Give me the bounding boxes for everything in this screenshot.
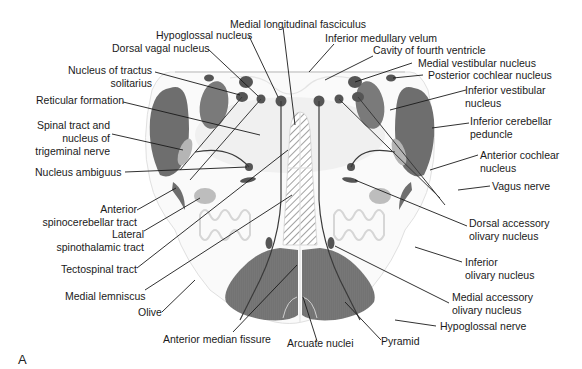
label-line-1: Inferior: [465, 256, 534, 269]
label-line-1: Anterior cochlear: [480, 149, 559, 162]
label-line-1: Dorsal accessory: [469, 217, 550, 230]
label-line-2: olivary nucleus: [469, 230, 550, 243]
label-line-2: olivary nucleus: [452, 304, 533, 317]
label-inferior-cerebellar-peduncle: Inferior cerebellar peduncle: [470, 115, 552, 141]
label-hypoglossal-nerve: Hypoglossal nerve: [440, 320, 526, 333]
label-line-2: solitarius: [68, 77, 152, 90]
label-nucleus-ambiguus: Nucleus ambiguus: [35, 166, 121, 179]
label-medial-accessory-olivary-nucleus: Medial accessory olivary nucleus: [452, 291, 533, 317]
panel-label: A: [18, 352, 27, 367]
medial-accessory-olivary-nucleus-left: [266, 237, 273, 249]
label-line-1: Nucleus of tractus: [68, 64, 152, 77]
label-inferior-olivary-nucleus: Inferior olivary nucleus: [465, 256, 534, 282]
label-dorsal-vagal-nucleus: Dorsal vagal nucleus: [112, 42, 209, 55]
label-line-1: Lateral: [56, 228, 144, 241]
label-cavity-fourth-ventricle: Cavity of fourth ventricle: [373, 44, 486, 57]
label-line-1: Inferior cerebellar: [470, 115, 552, 128]
label-lateral-spinothalamic-tract: Lateral spinothalamic tract: [56, 228, 144, 254]
label-vagus-nerve: Vagus nerve: [492, 180, 550, 193]
label-line-2: olivary nucleus: [465, 269, 534, 282]
label-reticular-formation: Reticular formation: [36, 94, 124, 107]
medial-accessory-olivary-nucleus-right: [328, 237, 335, 249]
label-line-3: trigeminal nerve: [35, 145, 110, 158]
medial-vestibular-nucleus-left: [239, 76, 253, 88]
label-anterior-cochlear-nucleus: Anterior cochlear nucleus: [480, 149, 559, 175]
label-inferior-vestibular-nucleus: Inferior vestibular nucleus: [465, 84, 546, 110]
label-line-2: nucleus: [480, 162, 559, 175]
label-tectospinal-tract: Tectospinal tract: [61, 263, 137, 276]
label-hypoglossal-nucleus: Hypoglossal nucleus: [156, 29, 252, 42]
label-line-2: nucleus: [465, 97, 546, 110]
label-olive: Olive: [138, 306, 162, 319]
label-line-1: Spinal tract and: [35, 119, 110, 132]
label-line-2: spinothalamic tract: [56, 241, 144, 254]
label-line-2: peduncle: [470, 128, 552, 141]
label-medial-lemniscus: Medial lemniscus: [65, 290, 146, 303]
label-line-1: Medial accessory: [452, 291, 533, 304]
label-anterior-median-fissure: Anterior median fissure: [163, 333, 271, 346]
label-dorsal-accessory-olivary-nucleus: Dorsal accessory olivary nucleus: [469, 217, 550, 243]
posterior-cochlear-nucleus-left: [204, 75, 214, 82]
label-posterior-cochlear-nucleus: Posterior cochlear nucleus: [428, 69, 552, 82]
label-line-1: Inferior vestibular: [465, 84, 546, 97]
label-line-2: nucleus of: [35, 132, 110, 145]
label-anterior-spinocerebellar-tract: Anterior spinocerebellar tract: [42, 203, 137, 229]
label-nucleus-tractus-solitarius: Nucleus of tractus solitarius: [68, 64, 152, 90]
label-arcuate-nuclei: Arcuate nuclei: [287, 337, 354, 350]
label-spinal-tract-trigeminal: Spinal tract and nucleus of trigeminal n…: [35, 119, 110, 158]
label-pyramid: Pyramid: [381, 335, 420, 348]
label-line-1: Anterior: [42, 203, 137, 216]
lateral-spinothalamic-tract-left: [194, 188, 216, 204]
